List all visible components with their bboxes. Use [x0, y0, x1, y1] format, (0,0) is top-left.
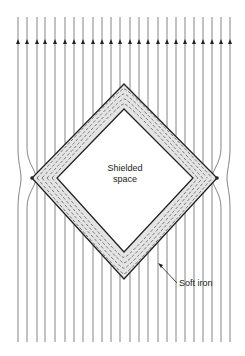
arrow-up-icon	[174, 39, 178, 44]
arrow-up-icon	[183, 39, 187, 44]
arrow-up-icon	[16, 39, 20, 44]
arrow-up-icon	[165, 39, 169, 44]
arrow-up-icon	[100, 39, 104, 44]
arrow-up-icon	[118, 39, 122, 44]
soft-iron-label: Soft iron	[179, 278, 229, 289]
arrow-up-icon	[91, 39, 95, 44]
arrow-up-icon	[210, 39, 214, 44]
arrow-up-icon	[109, 39, 113, 44]
arrow-up-icon	[43, 39, 47, 44]
arrow-up-icon	[72, 39, 76, 44]
arrow-heads	[16, 39, 232, 44]
arrow-up-icon	[35, 39, 39, 44]
shielded-label-line1: Shielded	[96, 163, 154, 174]
arrow-up-icon	[63, 39, 67, 44]
arrow-up-icon	[228, 39, 232, 44]
arrow-up-icon	[201, 39, 205, 44]
arrow-up-icon	[219, 39, 223, 44]
arrow-up-icon	[192, 39, 196, 44]
arrow-up-icon	[25, 39, 29, 44]
arrow-up-icon	[128, 39, 132, 44]
arrow-up-icon	[156, 39, 160, 44]
arrow-up-icon	[53, 39, 57, 44]
field-line	[18, 17, 21, 342]
field-line	[227, 17, 230, 342]
arrow-up-icon	[137, 39, 141, 44]
arrow-up-icon	[146, 39, 150, 44]
shield-vertex	[30, 176, 34, 180]
shielded-label-line2: space	[96, 174, 154, 185]
arrow-up-icon	[81, 39, 85, 44]
soft-iron-leader-line	[160, 265, 177, 283]
shield-vertex	[215, 176, 219, 180]
shielded-space-label: Shielded space	[96, 163, 154, 185]
